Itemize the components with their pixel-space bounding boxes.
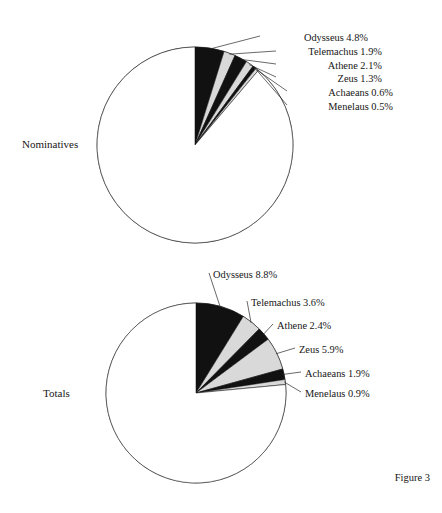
- leader-line-zeus: [276, 348, 295, 354]
- pie-label-telemachus-nominatives: Telemachus 1.9%: [308, 46, 382, 57]
- figure-page: Nominatives Odysseus 4.8% Telemachus 1.9…: [0, 0, 442, 513]
- pie-label-telemachus-totals: Telemachus 3.6%: [251, 297, 325, 308]
- leader-line-menelaus: [284, 382, 301, 392]
- row-label-totals: Totals: [43, 387, 70, 399]
- pie-labels-nominatives: Odysseus 4.8% Telemachus 1.9% Athene 2.1…: [304, 32, 393, 112]
- pie-label-achaeans-nominatives: Achaeans 0.6%: [328, 87, 393, 98]
- pie-label-zeus-totals: Zeus 5.9%: [299, 344, 344, 355]
- pie-slices-nominatives: [97, 47, 293, 243]
- leader-line-athene: [263, 324, 273, 335]
- pie-slice-other: [97, 47, 293, 243]
- pie-slices-totals: [106, 303, 286, 483]
- figure-canvas: Nominatives Odysseus 4.8% Telemachus 1.9…: [0, 0, 442, 513]
- pie-label-athene-totals: Athene 2.4%: [277, 320, 332, 331]
- row-label-nominatives: Nominatives: [22, 138, 78, 150]
- pie-label-menelaus-nominatives: Menelaus 0.5%: [328, 101, 393, 112]
- pie-label-zeus-nominatives: Zeus 1.3%: [338, 73, 383, 84]
- pie-label-odysseus-nominatives: Odysseus 4.8%: [304, 32, 368, 43]
- pie-label-odysseus-totals: Odysseus 8.8%: [213, 269, 277, 280]
- leader-line-achaeans: [283, 372, 301, 374]
- leader-line-odysseus: [210, 36, 260, 49]
- pie-chart-nominatives: [97, 36, 293, 243]
- pie-label-achaeans-totals: Achaeans 1.9%: [305, 368, 370, 379]
- pie-label-menelaus-totals: Menelaus 0.9%: [305, 388, 370, 399]
- leader-line-telemachus: [229, 51, 276, 54]
- figure-caption: Figure 3: [395, 472, 430, 483]
- pie-label-athene-nominatives: Athene 2.1%: [328, 60, 383, 71]
